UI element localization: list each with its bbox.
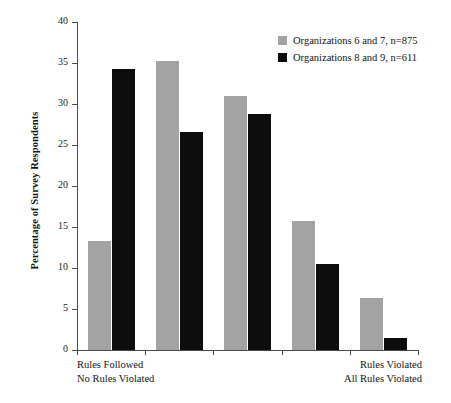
legend-swatch-icon-series-b — [278, 53, 287, 62]
bar-series-b-group-2 — [180, 132, 203, 350]
x-axis-label-right: Rules Violated All Rules Violated — [344, 358, 422, 386]
legend-item-series-b: Organizations 8 and 9, n=611 — [278, 49, 417, 66]
bar-series-a-group-1 — [88, 241, 111, 350]
y-tick: 20 — [72, 186, 77, 187]
x-axis-label-left: Rules Followed No Rules Violated — [77, 358, 154, 386]
x-tick — [282, 350, 283, 355]
bar-series-b-group-3 — [248, 114, 271, 350]
y-axis-line — [77, 22, 78, 350]
bar-series-a-group-5 — [360, 298, 383, 350]
legend-swatch-icon-series-a — [278, 36, 287, 45]
y-tick-label: 5 — [63, 302, 68, 313]
y-tick-label: 35 — [58, 56, 68, 67]
x-axis-label-right-line2: All Rules Violated — [344, 372, 422, 386]
x-axis-line — [77, 350, 418, 351]
y-tick: 5 — [72, 309, 77, 310]
bar-series-a-group-3 — [224, 96, 247, 350]
x-axis-label-right-line1: Rules Violated — [344, 358, 422, 372]
x-tick — [418, 350, 419, 355]
y-tick-label: 10 — [58, 261, 68, 272]
x-axis-label-left-line2: No Rules Violated — [77, 372, 154, 386]
legend-label-series-a: Organizations 6 and 7, n=875 — [293, 35, 417, 46]
y-tick: 15 — [72, 227, 77, 228]
y-tick: 35 — [72, 63, 77, 64]
y-tick: 25 — [72, 145, 77, 146]
y-tick: 10 — [72, 268, 77, 269]
y-tick: 30 — [72, 104, 77, 105]
legend-label-series-b: Organizations 8 and 9, n=611 — [293, 52, 417, 63]
y-tick-label: 20 — [58, 179, 68, 190]
x-tick — [213, 350, 214, 355]
bar-series-b-group-4 — [316, 264, 339, 350]
chart-legend: Organizations 6 and 7, n=875 Organizatio… — [278, 32, 417, 66]
bar-series-a-group-2 — [156, 61, 179, 350]
y-tick-label: 30 — [58, 97, 68, 108]
x-tick — [77, 350, 78, 355]
plot-area: 0510152025303540 Rules Followed No Rules… — [77, 22, 418, 350]
x-axis-label-left-line1: Rules Followed — [77, 358, 154, 372]
x-tick — [145, 350, 146, 355]
y-tick-label: 0 — [63, 343, 68, 354]
y-tick: 40 — [72, 22, 77, 23]
bar-series-b-group-5 — [384, 338, 407, 350]
y-tick-label: 25 — [58, 138, 68, 149]
x-tick — [350, 350, 351, 355]
y-tick-label: 40 — [58, 15, 68, 26]
bar-chart: Percentage of Survey Respondents 0510152… — [0, 0, 451, 403]
bar-series-a-group-4 — [292, 221, 315, 350]
y-axis-title: Percentage of Survey Respondents — [29, 71, 40, 311]
legend-item-series-a: Organizations 6 and 7, n=875 — [278, 32, 417, 49]
bar-series-b-group-1 — [112, 69, 135, 350]
y-tick-label: 15 — [58, 220, 68, 231]
